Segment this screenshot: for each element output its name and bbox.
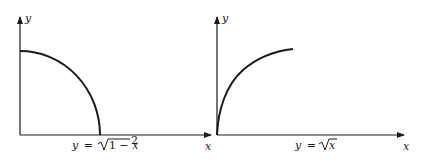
- svg-text:y =: y =: [294, 139, 316, 152]
- left-x-axis-label: x: [205, 140, 212, 153]
- right-x-axis-label: x: [403, 140, 410, 153]
- left-graph: y x y = 1 − x 2: [20, 12, 212, 153]
- right-y-axis-label: y: [221, 12, 229, 25]
- left-equation: y = 1 − x 2: [71, 134, 139, 152]
- figure: y x y = 1 − x 2 y x y = x: [0, 0, 429, 165]
- right-eq-radicand: x: [329, 139, 336, 152]
- right-graph: y x y = x: [217, 12, 410, 153]
- left-y-axis-label: y: [24, 12, 32, 25]
- svg-text:y =: y =: [71, 139, 93, 152]
- right-equation: y = x: [294, 139, 337, 152]
- right-curve-sqrt: [217, 49, 293, 135]
- left-curve-quarter-circle: [20, 51, 100, 135]
- left-eq-exponent: 2: [131, 134, 138, 147]
